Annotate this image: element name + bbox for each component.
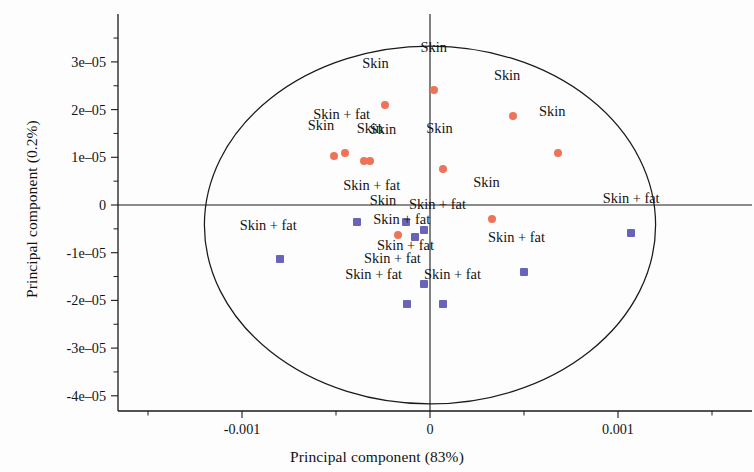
- y-tick-label: 3e–05: [71, 53, 106, 70]
- data-point-marker: [276, 255, 284, 263]
- data-point-marker: [488, 215, 496, 223]
- data-point-marker: [403, 300, 411, 308]
- y-axis-title: Principal component (0.2%): [23, 0, 41, 419]
- y-tick-label: -1e–05: [67, 244, 106, 261]
- data-point-marker: [520, 268, 528, 276]
- x-tick-label: 0: [426, 421, 433, 438]
- data-point-marker: [430, 86, 438, 94]
- x-tick-label: -0.001: [224, 421, 261, 438]
- data-point-marker: [330, 152, 338, 160]
- x-axis-title: Principal component (83%): [0, 448, 754, 466]
- y-tick-label: 1e–05: [71, 149, 106, 166]
- y-tick-label: 0: [99, 197, 106, 214]
- data-point-marker: [381, 101, 389, 109]
- data-point-marker: [509, 112, 517, 120]
- data-point-marker: [402, 218, 410, 226]
- data-point-marker: [394, 231, 402, 239]
- data-point-marker: [341, 149, 349, 157]
- plot-canvas: [0, 0, 754, 472]
- data-point-marker: [439, 165, 447, 173]
- data-point-marker: [554, 149, 562, 157]
- data-point-marker: [420, 280, 428, 288]
- y-tick-label: 2e–05: [71, 101, 106, 118]
- data-point-marker: [420, 226, 428, 234]
- y-tick-label: -2e–05: [67, 292, 106, 309]
- data-point-marker: [411, 233, 419, 241]
- data-point-marker: [366, 157, 374, 165]
- y-tick-label: -4e–05: [67, 387, 106, 404]
- y-tick-label: -3e–05: [67, 340, 106, 357]
- x-tick-label: 0.001: [602, 421, 634, 438]
- data-point-marker: [439, 300, 447, 308]
- data-point-marker: [627, 229, 635, 237]
- pca-scatter-figure: SkinSkinSkinSkinSkinSkinSkin + fatSkinSk…: [0, 0, 754, 472]
- data-point-marker: [353, 218, 361, 226]
